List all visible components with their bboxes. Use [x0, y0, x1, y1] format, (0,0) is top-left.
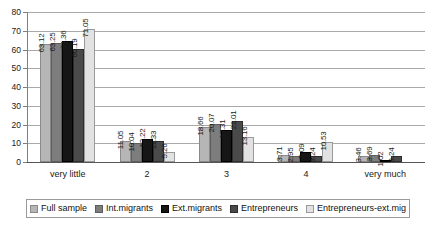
- bar-group-bars: 3.463.691.023.24: [358, 12, 413, 162]
- x-tick-label: 4: [266, 165, 345, 183]
- x-tick-label: very much: [346, 165, 425, 183]
- bar[interactable]: 63.12: [40, 44, 51, 162]
- y-tick-label: 0: [16, 158, 21, 167]
- y-tick-label: 60: [12, 45, 21, 54]
- legend-label: Full sample: [41, 204, 87, 213]
- bar-value-label: 20.07: [208, 114, 216, 133]
- legend-item[interactable]: Entrepreneurs-ext.mig: [306, 204, 406, 213]
- bar[interactable]: 71.05: [84, 29, 95, 162]
- legend-label: Entrepreneurs-ext.mig: [317, 204, 406, 213]
- bar-group: 3.463.691.023.24: [346, 12, 425, 162]
- bar-value-label: 60.19: [71, 39, 79, 58]
- y-tick-label: 50: [12, 64, 21, 73]
- bar[interactable]: 17.31: [221, 130, 232, 162]
- y-tick-label: 40: [12, 83, 21, 92]
- bar-value-label: 64.36: [60, 31, 68, 50]
- legend-label: Ext.migrants: [172, 204, 222, 213]
- bar[interactable]: 63.25: [51, 43, 62, 162]
- bar-value-label: 18.66: [197, 117, 205, 136]
- legend-item[interactable]: Int.migrants: [95, 204, 153, 213]
- legend-swatch-icon: [306, 205, 314, 213]
- legend-swatch-icon: [230, 205, 238, 213]
- x-tick-label: 3: [187, 165, 266, 183]
- bar[interactable]: 60.19: [73, 49, 84, 162]
- bar[interactable]: 5.26: [164, 152, 175, 162]
- plot-area: 01020304050607080 63.1263.2564.3660.1971…: [0, 0, 436, 188]
- bar[interactable]: 3.24: [391, 156, 402, 162]
- bar-value-label: 10.53: [320, 132, 328, 151]
- bar[interactable]: 64.36: [62, 41, 73, 162]
- bar-value-label: 71.05: [82, 18, 90, 37]
- bar-value-label: 17.31: [219, 119, 227, 138]
- bar-group-bars: 3.712.955.093.2410.53: [278, 12, 333, 162]
- bar-value-label: 3.24: [388, 148, 396, 163]
- bar-value-label: 12.22: [139, 129, 147, 148]
- bar-value-label: 13.16: [241, 127, 249, 146]
- bar-value-label: 3.71: [276, 147, 284, 162]
- y-tick-label: 10: [12, 139, 21, 148]
- bar-value-label: 3.69: [366, 147, 374, 162]
- bar-value-label: 5.09: [298, 144, 306, 159]
- bar-group: 63.1263.2564.3660.1971.05: [28, 12, 107, 162]
- legend-swatch-icon: [95, 205, 103, 213]
- y-tick-label: 70: [12, 27, 21, 36]
- bar[interactable]: 10.53: [322, 142, 333, 162]
- x-axis-tick-labels: very little234very much: [28, 165, 425, 183]
- y-tick-label: 80: [12, 8, 21, 17]
- legend-swatch-icon: [30, 205, 38, 213]
- bar-value-label: 5.26: [161, 144, 169, 159]
- bar-value-label: 10.04: [128, 133, 136, 152]
- bar-value-label: 63.12: [38, 33, 46, 52]
- bar-value-label: 3.46: [355, 147, 363, 162]
- bar-value-label: 22.01: [230, 110, 238, 129]
- legend-swatch-icon: [161, 205, 169, 213]
- legend-label: Entrepreneurs: [241, 204, 298, 213]
- bar-value-label: 3.24: [309, 148, 317, 163]
- bar-chart: 01020304050607080 63.1263.2564.3660.1971…: [0, 0, 436, 229]
- chart-legend: Full sampleInt.migrantsExt.migrantsEntre…: [26, 199, 410, 218]
- bar-group: 18.6620.0717.3122.0113.16: [187, 12, 266, 162]
- legend-item[interactable]: Entrepreneurs: [230, 204, 298, 213]
- bar-group-bars: 11.0510.0412.2211.335.26: [120, 12, 175, 162]
- x-tick-label: 2: [107, 165, 186, 183]
- bar-group-bars: 18.6620.0717.3122.0113.16: [199, 12, 254, 162]
- bar-value-label: 2.95: [287, 148, 295, 163]
- x-tick-label: very little: [28, 165, 107, 183]
- y-tick-label: 30: [12, 102, 21, 111]
- bar-group: 3.712.955.093.2410.53: [266, 12, 345, 162]
- bar-value-label: 63.25: [49, 33, 57, 52]
- bar-groups: 63.1263.2564.3660.1971.0511.0510.0412.22…: [28, 12, 425, 162]
- legend-item[interactable]: Full sample: [30, 204, 87, 213]
- bar[interactable]: 3.24: [311, 156, 322, 162]
- bar-value-label: 11.33: [150, 131, 158, 149]
- legend-item[interactable]: Ext.migrants: [161, 204, 222, 213]
- legend-label: Int.migrants: [106, 204, 153, 213]
- bar-group-bars: 63.1263.2564.3660.1971.05: [40, 12, 95, 162]
- bar-group: 11.0510.0412.2211.335.26: [107, 12, 186, 162]
- y-axis-tick-labels: 01020304050607080: [0, 0, 24, 188]
- y-tick-label: 20: [12, 120, 21, 129]
- bar-value-label: 11.05: [117, 131, 125, 149]
- bar[interactable]: 13.16: [243, 137, 254, 162]
